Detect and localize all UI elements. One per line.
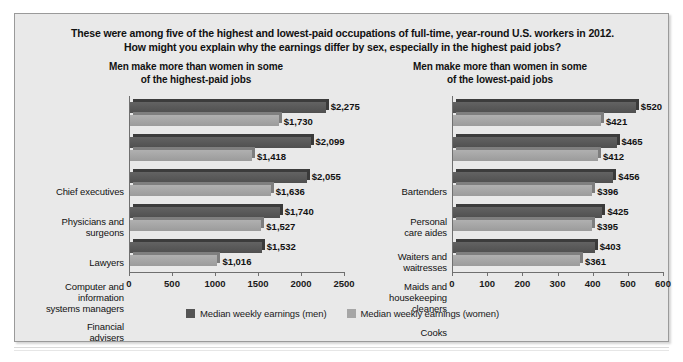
chart-subheading-right-line-1: Men make more than women in some	[355, 60, 645, 73]
bar-men-side-edge	[262, 239, 265, 250]
bar-women	[453, 220, 592, 231]
bar-women-top-edge	[456, 252, 583, 255]
bar-value-label-women: $1,730	[284, 116, 313, 127]
bar-men-top-edge	[133, 134, 314, 137]
category-label-line: Computer and	[23, 281, 124, 292]
bar-women-side-edge	[592, 217, 595, 228]
bar-women-top-edge	[456, 147, 601, 150]
bar-value-label-women: $361	[585, 256, 606, 267]
x-axis-tick-label: 2000	[290, 278, 311, 289]
x-axis-tick	[663, 272, 664, 276]
bar-women-face	[130, 185, 271, 196]
bar-value-label-women: $1,527	[266, 221, 295, 232]
bar-value-label-men: $1,740	[285, 206, 314, 217]
bar-men-side-edge	[307, 169, 310, 180]
category-label-line: Lawyers	[23, 257, 124, 268]
bar-women	[130, 115, 279, 126]
chart-highest-paid-jobs: 05001000150020002500$2,275$1,730$2,099$1…	[23, 96, 353, 294]
category-label-line: waitresses	[353, 262, 447, 273]
bar-women-side-edge	[598, 147, 601, 158]
plot-area-right: 0100200300400500600$520$421$465$412$456$…	[452, 96, 663, 272]
category-label-line: information	[23, 292, 124, 303]
page-rule-secondary	[14, 350, 669, 351]
x-axis-tick	[172, 272, 173, 276]
bar-men-side-edge	[311, 134, 314, 145]
bar-men-side-edge	[602, 204, 605, 215]
bar-women-face	[130, 115, 279, 126]
bar-value-label-women: $1,418	[257, 151, 286, 162]
figure-title-line-2: How might you explain why the earnings d…	[15, 40, 670, 54]
category-label: Financialadvisers	[23, 321, 124, 343]
bar-value-label-women: $395	[597, 221, 618, 232]
bar-women-face	[453, 255, 580, 266]
category-label-line: advisers	[23, 332, 124, 343]
page-rule-primary	[14, 347, 669, 348]
category-label: Waiters andwaitresses	[353, 251, 447, 273]
category-label: Chief executives	[23, 186, 124, 197]
bar-men-top-edge	[133, 99, 329, 102]
chart-subheading-left: Men make more than women in some of the …	[51, 60, 341, 86]
x-axis-tick-label: 100	[479, 278, 495, 289]
x-axis-tick-label: 500	[620, 278, 636, 289]
bar-men-top-edge	[456, 239, 598, 242]
bar-women-side-edge	[271, 182, 274, 193]
bar-men-top-edge	[133, 169, 310, 172]
plot-area-left: 05001000150020002500$2,275$1,730$2,099$1…	[129, 96, 344, 272]
bar-men-top-edge	[133, 239, 265, 242]
bar-women-side-edge	[261, 217, 264, 228]
legend-swatch-men-icon	[186, 309, 195, 318]
category-label-line: care aides	[353, 227, 447, 238]
x-axis-tick	[215, 272, 216, 276]
category-label-line: Personal	[353, 216, 447, 227]
bar-men-top-edge	[456, 169, 616, 172]
bar-women-side-edge	[279, 112, 282, 123]
bar-women	[453, 255, 580, 266]
category-label: Personalcare aides	[353, 216, 447, 238]
legend-swatch-women-icon	[347, 309, 356, 318]
figure-title-line-1: These were among five of the highest and…	[15, 26, 670, 40]
bar-women-side-edge	[252, 147, 255, 158]
bar-women-face	[130, 150, 252, 161]
bar-women-face	[453, 150, 598, 161]
bar-women	[453, 150, 598, 161]
chart-legend: Median weekly earnings (men) Median week…	[15, 308, 670, 319]
category-label-line: Chief executives	[23, 186, 124, 197]
x-axis-tick	[628, 272, 629, 276]
bar-women-face	[130, 220, 261, 231]
x-axis-tick-label: 1500	[247, 278, 268, 289]
bar-value-label-men: $465	[622, 136, 643, 147]
bar-women-side-edge	[217, 252, 220, 263]
bar-value-label-women: $412	[603, 151, 624, 162]
x-axis-tick-label: 300	[550, 278, 566, 289]
x-axis-tick-label: 600	[655, 278, 671, 289]
x-axis-tick-label: 500	[164, 278, 180, 289]
category-label-line: Bartenders	[353, 186, 447, 197]
bar-men-side-edge	[617, 134, 620, 145]
category-label-line: housekeeping	[353, 292, 447, 303]
bar-women	[453, 115, 601, 126]
x-axis-tick-label: 0	[449, 278, 454, 289]
legend-item-men: Median weekly earnings (men)	[186, 308, 327, 319]
bar-women-top-edge	[133, 252, 220, 255]
chart-subheading-right: Men make more than women in some of the …	[355, 60, 645, 86]
x-axis-tick-label: 400	[585, 278, 601, 289]
bar-women-face	[453, 115, 601, 126]
category-label: Lawyers	[23, 257, 124, 268]
x-axis-tick	[452, 272, 453, 276]
legend-label-women: Median weekly earnings (women)	[361, 308, 500, 319]
x-axis-tick-label: 1000	[204, 278, 225, 289]
bar-women-top-edge	[133, 217, 264, 220]
bar-men-top-edge	[456, 134, 620, 137]
category-label: Cooks	[353, 327, 447, 338]
bar-women-top-edge	[133, 147, 255, 150]
bar-value-label-men: $2,099	[316, 136, 345, 147]
bar-men-side-edge	[595, 239, 598, 250]
bar-women-top-edge	[456, 182, 595, 185]
x-axis-line-left	[129, 272, 344, 273]
chart-subheading-right-line-2: of the lowest-paid jobs	[355, 73, 645, 86]
x-axis-tick	[129, 272, 130, 276]
bar-men-side-edge	[613, 169, 616, 180]
bar-men-side-edge	[636, 99, 639, 110]
bar-women-face	[453, 185, 592, 196]
bar-value-label-women: $1,016	[222, 256, 251, 267]
